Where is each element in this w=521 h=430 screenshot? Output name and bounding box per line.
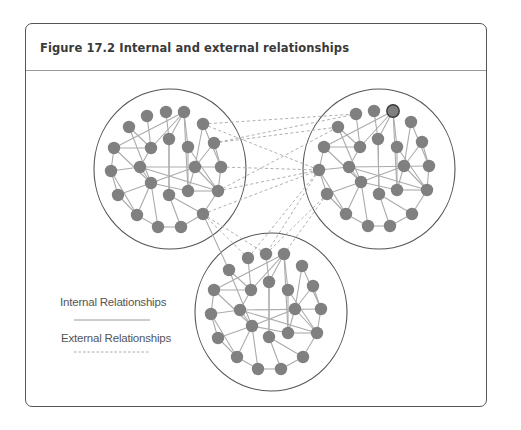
node (343, 161, 355, 173)
node (384, 220, 396, 232)
network-diagram (0, 0, 521, 430)
node (123, 121, 135, 133)
node (368, 105, 380, 117)
external-edge (214, 127, 338, 143)
external-edge (248, 170, 319, 258)
node (311, 327, 323, 339)
node (315, 303, 327, 315)
legend-external-label: External Relationships (61, 332, 171, 344)
node (421, 184, 433, 196)
node (231, 351, 243, 363)
node (405, 116, 417, 128)
node (246, 320, 258, 332)
internal-edge (324, 147, 361, 182)
external-edge (284, 194, 327, 254)
legend-internal-label: Internal Relationships (60, 296, 166, 308)
node (178, 106, 190, 118)
node (212, 185, 224, 197)
internal-edge (151, 183, 158, 227)
node (131, 209, 143, 221)
node (350, 108, 362, 120)
node (275, 363, 287, 375)
node (318, 141, 330, 153)
internal-edge (214, 290, 252, 326)
internal-relationship-edges (111, 111, 429, 369)
internal-edge (252, 326, 258, 369)
node (145, 142, 157, 154)
node (307, 280, 319, 292)
node (205, 308, 217, 320)
node (332, 121, 344, 133)
node (175, 221, 187, 233)
node (215, 161, 227, 173)
node (208, 137, 220, 149)
external-edge (221, 167, 319, 170)
node (398, 160, 410, 172)
node (313, 164, 325, 176)
node (208, 284, 220, 296)
external-edge (266, 194, 327, 254)
node (263, 276, 275, 288)
node (263, 331, 275, 343)
node (423, 160, 435, 172)
external-edge (266, 170, 319, 254)
internal-edge (203, 214, 229, 270)
node (152, 221, 164, 233)
highlighted-node (387, 105, 399, 117)
node (212, 332, 224, 344)
internal-edge (195, 124, 203, 167)
node (242, 252, 254, 264)
node (289, 303, 301, 315)
node (354, 141, 366, 153)
node (163, 133, 175, 145)
node (340, 208, 352, 220)
node (182, 185, 194, 197)
node (108, 142, 120, 154)
node (260, 248, 272, 260)
node (223, 264, 235, 276)
node (145, 177, 157, 189)
internal-edge (129, 127, 151, 183)
external-edge (203, 214, 248, 258)
internal-edge (349, 166, 429, 167)
node (296, 260, 308, 272)
node (373, 188, 385, 200)
internal-edge (240, 309, 321, 310)
node (391, 141, 403, 153)
node (282, 284, 294, 296)
node (252, 363, 264, 375)
node (278, 248, 290, 260)
external-relationship-edges (203, 114, 356, 258)
internal-edge (361, 182, 368, 226)
node (372, 133, 384, 145)
node (105, 165, 117, 177)
node (234, 304, 246, 316)
internal-edge (229, 270, 252, 326)
internal-edge (338, 127, 361, 182)
node (197, 208, 209, 220)
node (197, 118, 209, 130)
node (112, 189, 124, 201)
node (163, 189, 175, 201)
node (391, 184, 403, 196)
node (355, 176, 367, 188)
node (182, 141, 194, 153)
node (141, 110, 153, 122)
node (321, 188, 333, 200)
node (362, 220, 374, 232)
node (134, 161, 146, 173)
node (160, 106, 172, 118)
node (282, 327, 294, 339)
node (416, 136, 428, 148)
node (406, 208, 418, 220)
node (245, 284, 257, 296)
node (297, 351, 309, 363)
node (189, 161, 201, 173)
